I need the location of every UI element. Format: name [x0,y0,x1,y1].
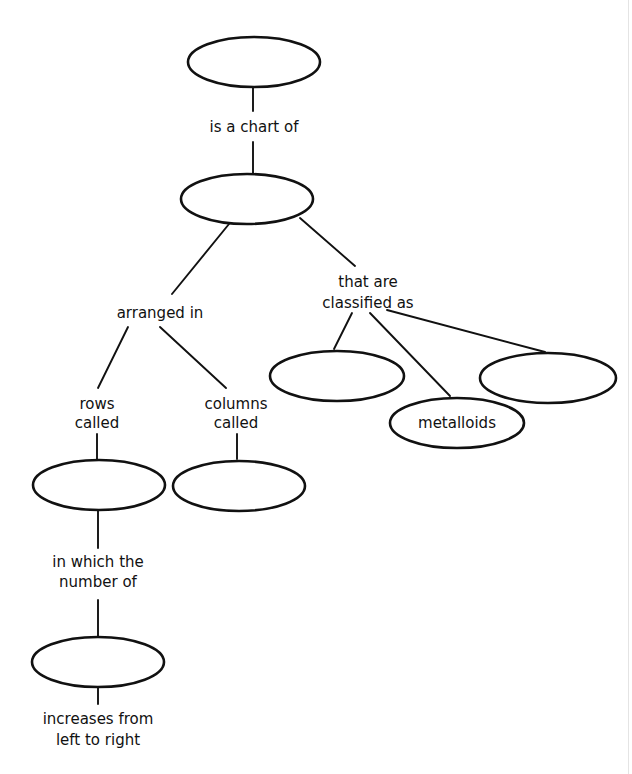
link-node2-to-arranged [172,224,229,294]
svg-text:rows: rows [79,395,114,413]
phrase-is-a-chart-of: is a chart of [210,118,300,136]
metalloids-label: metalloids [418,414,496,432]
node-root [188,37,320,87]
node-rows [33,460,165,510]
page-edge-line [628,0,629,774]
concept-map: metalloids is a chart of arranged in tha… [0,0,632,774]
phrase-that-are-classified-as: that are classified as [322,273,414,312]
svg-text:classified as: classified as [322,294,414,312]
svg-text:increases from: increases from [43,710,154,728]
phrase-columns-called: columns called [204,395,267,432]
link-classified-to-left [334,313,352,349]
phrase-increases-from-left-to-right: increases from left to right [43,710,154,749]
link-classified-to-right [387,310,545,352]
link-node2-to-classified [300,218,355,266]
phrase-in-which-the-number-of: in which the number of [52,553,144,591]
phrase-rows-called: rows called [75,395,120,432]
node-columns [173,461,305,511]
node-metalloids: metalloids [390,398,524,448]
node-bottom [32,637,164,687]
svg-text:called: called [75,414,120,432]
svg-text:columns: columns [204,395,267,413]
node-periodic-table [181,174,313,224]
link-arranged-to-rows [98,327,128,388]
svg-text:that are: that are [338,273,398,291]
node-class-left [270,351,404,401]
svg-text:in which the: in which the [52,553,144,571]
node-class-right [480,353,616,403]
svg-text:called: called [214,414,259,432]
svg-text:number of: number of [59,573,137,591]
svg-text:left to right: left to right [56,731,140,749]
link-arranged-to-columns [160,327,226,388]
phrase-arranged-in: arranged in [117,304,204,322]
